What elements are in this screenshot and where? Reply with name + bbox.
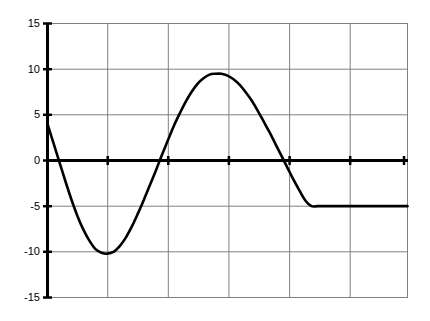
data-series-curve	[48, 74, 408, 254]
line-chart: 15 10 5 0 -5 -10 -15	[0, 0, 430, 321]
y-axis-label-0: 0	[8, 155, 40, 166]
y-axis-label--10: -10	[8, 246, 40, 257]
y-axis-label-10: 10	[8, 64, 40, 75]
y-axis-label-15: 15	[8, 18, 40, 29]
y-axis-label-5: 5	[8, 109, 40, 120]
y-axis-label--15: -15	[8, 292, 40, 303]
y-axis-label--5: -5	[8, 201, 40, 212]
chart-canvas	[0, 0, 430, 321]
